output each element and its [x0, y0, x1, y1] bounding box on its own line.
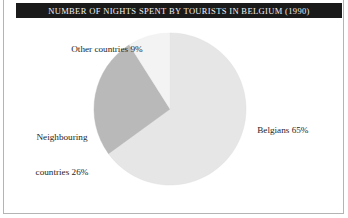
pie-label-neighbouring-countries-line1: Neighbouring: [14, 132, 110, 144]
pie-label-belgians-text: Belgians 65%: [257, 125, 308, 135]
pie-label-other-countries: Other countries 9%: [62, 32, 143, 67]
pie-label-other-countries-text: Other countries 9%: [71, 44, 142, 54]
pie-label-neighbouring-countries: Neighbouring countries 26%: [14, 109, 110, 201]
chart-title-bar: NUMBER OF NIGHTS SPENT BY TOURISTS IN BE…: [16, 3, 342, 18]
pie-chart-plot-area: Other countries 9% Neighbouring countrie…: [0, 18, 348, 214]
pie-label-neighbouring-countries-line2: countries 26%: [14, 167, 110, 179]
chart-title: NUMBER OF NIGHTS SPENT BY TOURISTS IN BE…: [48, 6, 310, 16]
pie-label-belgians: Belgians 65%: [248, 113, 308, 148]
